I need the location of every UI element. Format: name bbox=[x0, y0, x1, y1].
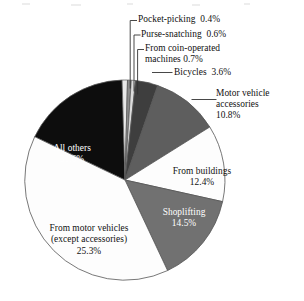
slice-value-all-others: 31.6% bbox=[28, 154, 116, 165]
pie-chart-figure: Pocket-picking 0.4% Purse-snatching 0.6%… bbox=[0, 0, 304, 301]
callout-value-purse-snatching: 0.6% bbox=[206, 29, 226, 39]
callout-value-pocket-picking: 0.4% bbox=[200, 14, 220, 24]
slice-label-text-motor-vehicles-line2: (except accessories) bbox=[23, 234, 155, 245]
callout-label-coin-machines-line1: From coin-operated bbox=[145, 43, 295, 54]
callout-label-coin-machines-line2: machines bbox=[145, 54, 181, 64]
callout-from-coin-operated-machines: From coin-operated machines 0.7% bbox=[145, 43, 295, 65]
callout-purse-snatching: Purse-snatching 0.6% bbox=[141, 29, 226, 40]
slice-label-from-motor-vehicles: From motor vehicles (except accessories)… bbox=[23, 223, 155, 257]
callout-value-bicycles: 3.6% bbox=[211, 67, 231, 77]
slice-label-shoplifting: Shoplifting 14.5% bbox=[144, 207, 224, 230]
callout-label-motor-accessories-line2: accessories bbox=[216, 99, 302, 110]
slice-label-text-from-buildings: From buildings bbox=[156, 166, 248, 177]
callout-label-purse-snatching: Purse-snatching bbox=[141, 29, 202, 39]
callout-label-bicycles: Bicycles bbox=[174, 67, 207, 77]
slice-value-shoplifting: 14.5% bbox=[144, 218, 224, 229]
callout-label-motor-accessories-line1: Motor vehicle bbox=[216, 88, 302, 99]
callout-label-pocket-picking: Pocket-picking bbox=[138, 14, 195, 24]
slice-value-from-buildings: 12.4% bbox=[156, 177, 248, 188]
slice-label-all-others: All others 31.6% bbox=[28, 143, 116, 166]
leader-line-pocket-picking bbox=[130, 21, 136, 89]
slice-label-text-all-others: All others bbox=[28, 143, 116, 154]
callout-bicycles: Bicycles 3.6% bbox=[174, 67, 231, 78]
slice-label-from-buildings: From buildings 12.4% bbox=[156, 166, 248, 189]
callout-motor-vehicle-accessories: Motor vehicle accessories 10.8% bbox=[216, 88, 302, 122]
callout-pocket-picking: Pocket-picking 0.4% bbox=[138, 14, 220, 25]
slice-value-from-motor-vehicles: 25.3% bbox=[23, 246, 155, 257]
slice-label-text-motor-vehicles-line1: From motor vehicles bbox=[23, 223, 155, 234]
slice-label-text-shoplifting: Shoplifting bbox=[144, 207, 224, 218]
callout-value-from-coin-operated-machines: 0.7% bbox=[183, 54, 203, 64]
callout-value-motor-vehicle-accessories: 10.8% bbox=[216, 110, 302, 121]
